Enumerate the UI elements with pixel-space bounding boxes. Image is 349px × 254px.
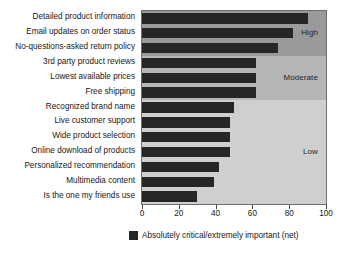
- bar: [142, 132, 230, 142]
- x-axis: 020406080100: [141, 205, 327, 221]
- category-label: Is the one my friends use: [44, 191, 135, 200]
- category-label: Live customer support: [54, 116, 135, 125]
- band-label-moderate: Moderate: [283, 73, 318, 82]
- bar: [142, 87, 256, 97]
- band-label-high: High: [301, 28, 318, 37]
- category-label: Email updates on order status: [26, 27, 135, 36]
- bar: [142, 58, 256, 68]
- bar: [142, 162, 219, 172]
- bar: [142, 13, 308, 23]
- category-label: 3rd party product reviews: [43, 57, 135, 66]
- legend-swatch-icon: [129, 231, 138, 240]
- x-tick-label: 20: [174, 209, 183, 218]
- category-label: Free shipping: [85, 87, 135, 96]
- category-label: Online download of products: [31, 146, 135, 155]
- bar: [142, 177, 214, 187]
- category-label: Multimedia content: [66, 176, 135, 185]
- band-label-low: Low: [303, 147, 318, 156]
- bar: [142, 117, 230, 127]
- x-tick-label: 60: [248, 209, 257, 218]
- category-label: Recognized brand name: [46, 102, 135, 111]
- bar-chart: Detailed product informationEmail update…: [0, 0, 349, 254]
- legend-label: Absolutely critical/extremely important …: [142, 231, 299, 240]
- x-tick-label: 100: [319, 209, 333, 218]
- category-label: Personalized recommendation: [24, 161, 135, 170]
- category-label: Lowest available prices: [50, 72, 135, 81]
- bar: [142, 73, 256, 83]
- category-label: Detailed product information: [33, 12, 135, 21]
- category-label: Wide product selection: [52, 131, 135, 140]
- x-tick-label: 0: [140, 209, 145, 218]
- category-label: No-questions-asked return policy: [15, 42, 135, 51]
- bar: [142, 147, 230, 157]
- x-tick-label: 80: [285, 209, 294, 218]
- bar: [142, 28, 293, 38]
- category-axis-labels: Detailed product informationEmail update…: [0, 10, 138, 205]
- bar: [142, 191, 197, 201]
- legend: Absolutely critical/extremely important …: [129, 231, 299, 240]
- plot-area: HighModerateLow: [141, 10, 327, 205]
- bar: [142, 102, 234, 112]
- bar: [142, 43, 278, 53]
- x-tick-label: 40: [211, 209, 220, 218]
